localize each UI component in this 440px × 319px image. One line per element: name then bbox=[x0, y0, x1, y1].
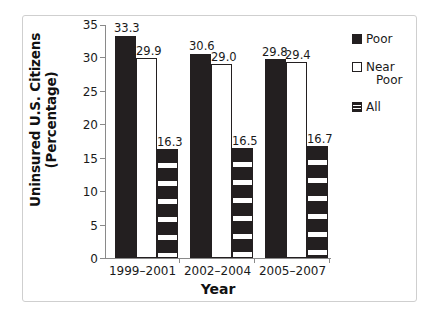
y-axis-tick-35 bbox=[100, 25, 105, 26]
value-label-all-1999-2001: 16.3 bbox=[157, 136, 183, 148]
y-tick-label-35: 35 bbox=[60, 19, 98, 31]
y-axis-tick-25 bbox=[100, 91, 105, 92]
x-axis-separator-2 bbox=[254, 258, 255, 263]
x-tick-label-2002-2004: 2002–2004 bbox=[180, 264, 255, 278]
plot-area: 33.3 29.9 16.3 30.6 29.0 16.5 29.8 29.4 … bbox=[105, 25, 330, 259]
y-tick-label-5: 5 bbox=[60, 220, 98, 232]
y-tick-label-25: 25 bbox=[60, 86, 98, 98]
y-tick-label-0: 0 bbox=[60, 253, 98, 265]
legend-item-near-poor[interactable]: Near Poor bbox=[352, 61, 414, 87]
value-label-all-2005-2007: 16.7 bbox=[307, 133, 333, 145]
bar-group-1999-2001: 33.3 29.9 16.3 bbox=[115, 25, 179, 258]
y-axis-tick-15 bbox=[100, 158, 105, 159]
y-axis-tick-0 bbox=[100, 258, 105, 259]
bar-near-poor-2005-2007[interactable] bbox=[286, 62, 307, 259]
legend: Poor Near Poor All bbox=[352, 33, 414, 129]
x-axis-line bbox=[105, 258, 331, 259]
y-axis-title-line-2: (Percentage) bbox=[43, 0, 59, 245]
chart-figure: Uninsured U.S. Citizens (Percentage) 0 5… bbox=[0, 0, 440, 319]
y-axis-tick-10 bbox=[100, 191, 105, 192]
legend-label-near-poor: Near Poor bbox=[366, 61, 414, 87]
bar-all-2002-2004[interactable] bbox=[232, 148, 253, 258]
bar-group-2005-2007: 29.8 29.4 16.7 bbox=[265, 25, 329, 258]
x-axis-title: Year bbox=[105, 281, 331, 297]
y-axis-tick-labels: 0 5 10 15 20 25 30 35 bbox=[60, 25, 98, 259]
x-tick-label-2005-2007: 2005–2007 bbox=[255, 264, 330, 278]
value-label-all-2002-2004: 16.5 bbox=[232, 135, 258, 147]
value-label-near-poor-1999-2001: 29.9 bbox=[136, 45, 162, 57]
bar-all-2005-2007[interactable] bbox=[307, 146, 328, 258]
bar-poor-1999-2001[interactable] bbox=[115, 36, 136, 259]
bar-near-poor-1999-2001[interactable] bbox=[136, 58, 157, 258]
y-axis-line bbox=[105, 25, 106, 259]
x-axis-separator-3 bbox=[329, 258, 330, 263]
legend-label-near-poor-line-1: Near bbox=[366, 60, 395, 74]
y-axis-title-line-1: Uninsured U.S. Citizens bbox=[27, 33, 43, 207]
legend-label-near-poor-line-2: Poor bbox=[376, 74, 414, 87]
y-tick-label-10: 10 bbox=[60, 186, 98, 198]
value-label-near-poor-2005-2007: 29.4 bbox=[285, 49, 311, 61]
legend-swatch-poor-icon bbox=[352, 34, 362, 44]
value-label-near-poor-2002-2004: 29.0 bbox=[211, 51, 237, 63]
y-tick-label-20: 20 bbox=[60, 119, 98, 131]
legend-label-all: All bbox=[366, 101, 414, 114]
bar-poor-2002-2004[interactable] bbox=[190, 54, 211, 259]
legend-item-all[interactable]: All bbox=[352, 101, 414, 115]
legend-item-poor[interactable]: Poor bbox=[352, 33, 414, 47]
y-tick-label-15: 15 bbox=[60, 153, 98, 165]
bar-group-2002-2004: 30.6 29.0 16.5 bbox=[190, 25, 254, 258]
value-label-poor-2005-2007: 29.8 bbox=[262, 46, 288, 58]
legend-swatch-all-icon bbox=[352, 102, 362, 112]
y-tick-label-30: 30 bbox=[60, 52, 98, 64]
bar-poor-2005-2007[interactable] bbox=[265, 59, 286, 258]
legend-swatch-near-poor-icon bbox=[352, 62, 362, 72]
y-axis-tick-20 bbox=[100, 124, 105, 125]
legend-label-poor: Poor bbox=[366, 33, 414, 46]
bar-near-poor-2002-2004[interactable] bbox=[211, 64, 232, 258]
bar-all-1999-2001[interactable] bbox=[157, 149, 178, 258]
value-label-poor-1999-2001: 33.3 bbox=[114, 22, 140, 34]
y-axis-tick-30 bbox=[100, 57, 105, 58]
x-axis-separator-1 bbox=[179, 258, 180, 263]
y-axis-tick-5 bbox=[100, 225, 105, 226]
x-tick-label-1999-2001: 1999–2001 bbox=[105, 264, 180, 278]
